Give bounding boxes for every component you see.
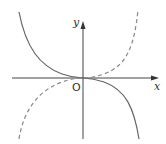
y-axis-label: y (73, 17, 79, 28)
x-axis-label: x (154, 81, 160, 92)
y-axis (81, 21, 86, 139)
solid-curve (19, 12, 139, 139)
dashed-curve (19, 10, 138, 139)
y-axis-arrow-icon (81, 21, 86, 29)
origin-label: O (72, 82, 81, 93)
function-graph (0, 0, 166, 144)
